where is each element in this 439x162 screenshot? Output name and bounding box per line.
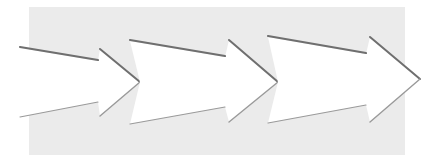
process-arrows-diagram (0, 0, 439, 162)
